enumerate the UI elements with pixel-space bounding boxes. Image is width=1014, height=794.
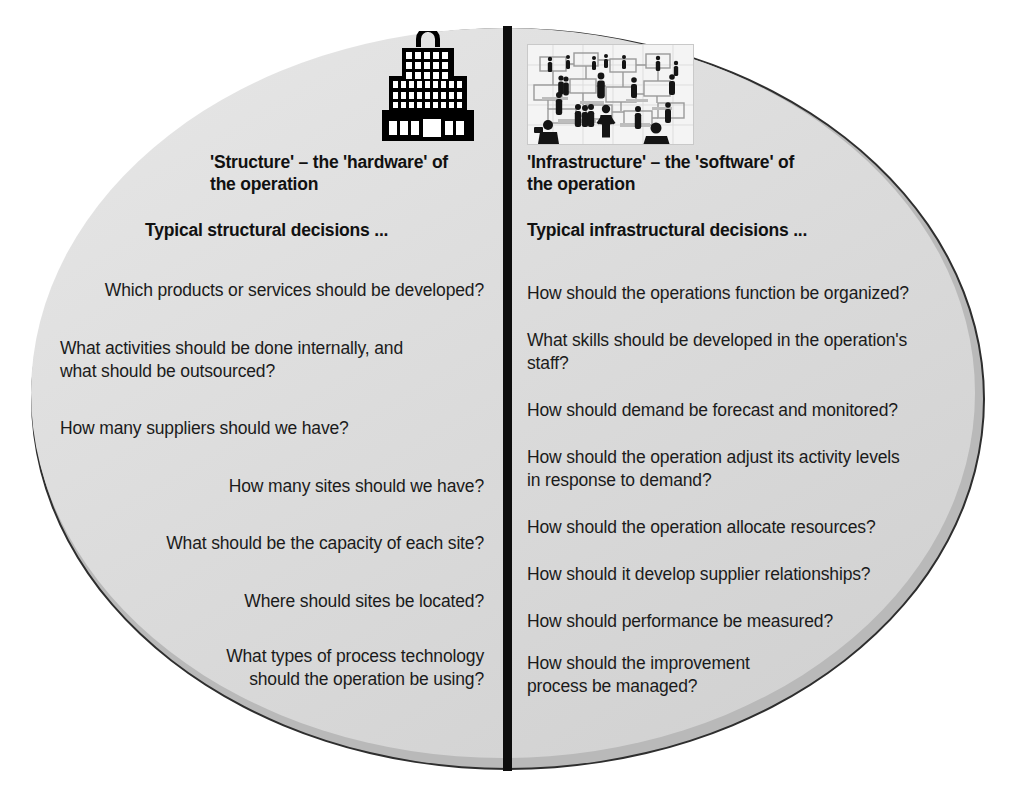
structure-question-2-line-1: What activities should be done internall…	[60, 337, 484, 360]
center-divider	[503, 26, 512, 771]
structure-question-6-line-1: Where should sites be located?	[60, 590, 484, 613]
building-icon	[372, 31, 484, 144]
people-network-icon	[527, 44, 694, 145]
structure-question-3: How many suppliers should we have?	[60, 417, 484, 440]
structure-question-5-line-1: What should be the capacity of each site…	[60, 532, 484, 555]
structure-heading: 'Structure' – the 'hardware' of the oper…	[120, 151, 475, 195]
infrastructure-question-2-line-1: What skills should be developed in the o…	[527, 329, 947, 352]
structure-heading-line-1: 'Structure' – the 'hardware' of	[210, 151, 475, 173]
structure-pane: 'Structure' – the 'hardware' of the oper…	[0, 0, 503, 794]
diagram-canvas: 'Structure' – the 'hardware' of the oper…	[0, 0, 1014, 794]
structure-question-2: What activities should be done internall…	[60, 337, 484, 383]
infrastructure-question-2-line-2: staff?	[527, 352, 947, 375]
infrastructure-question-1-line-1: How should the operations function be or…	[527, 282, 947, 305]
structure-question-5: What should be the capacity of each site…	[60, 532, 484, 555]
structure-question-6: Where should sites be located?	[60, 590, 484, 613]
infrastructure-subheading: Typical infrastructural decisions ...	[527, 219, 927, 241]
structure-heading-line-2: the operation	[210, 173, 475, 195]
infrastructure-question-4: How should the operation adjust its acti…	[527, 446, 947, 492]
infrastructure-question-5-line-1: How should the operation allocate resour…	[527, 516, 947, 539]
infrastructure-question-2: What skills should be developed in the o…	[527, 329, 947, 375]
infrastructure-question-6-line-1: How should it develop supplier relations…	[527, 563, 947, 586]
structure-question-1: Which products or services should be dev…	[60, 279, 484, 302]
infrastructure-question-3: How should demand be forecast and monito…	[527, 399, 947, 422]
infrastructure-heading-line-2: the operation	[527, 173, 927, 195]
infrastructure-heading: 'Infrastructure' – the 'software' of the…	[527, 151, 927, 195]
infrastructure-question-3-line-1: How should demand be forecast and monito…	[527, 399, 947, 422]
structure-question-4: How many sites should we have?	[60, 475, 484, 498]
structure-question-7-line-2: should the operation be using?	[60, 668, 484, 691]
infrastructure-question-8-line-2: process be managed?	[527, 675, 947, 698]
structure-question-3-line-1: How many suppliers should we have?	[60, 417, 484, 440]
infrastructure-question-4-line-2: in response to demand?	[527, 469, 947, 492]
structure-question-1-line-1: Which products or services should be dev…	[60, 279, 484, 302]
infrastructure-question-7-line-1: How should performance be measured?	[527, 610, 947, 633]
infrastructure-question-8: How should the improvement process be ma…	[527, 652, 947, 698]
structure-subheading: Typical structural decisions ...	[120, 219, 475, 241]
infrastructure-question-7: How should performance be measured?	[527, 610, 947, 633]
infrastructure-heading-line-1: 'Infrastructure' – the 'software' of	[527, 151, 927, 173]
infrastructure-question-1: How should the operations function be or…	[527, 282, 947, 305]
structure-question-7: What types of process technology should …	[60, 645, 484, 691]
infrastructure-question-8-line-1: How should the improvement	[527, 652, 947, 675]
infrastructure-question-4-line-1: How should the operation adjust its acti…	[527, 446, 947, 469]
structure-question-2-line-2: what should be outsourced?	[60, 360, 484, 383]
structure-question-7-line-1: What types of process technology	[60, 645, 484, 668]
infrastructure-question-5: How should the operation allocate resour…	[527, 516, 947, 539]
structure-question-4-line-1: How many sites should we have?	[60, 475, 484, 498]
infrastructure-question-6: How should it develop supplier relations…	[527, 563, 947, 586]
